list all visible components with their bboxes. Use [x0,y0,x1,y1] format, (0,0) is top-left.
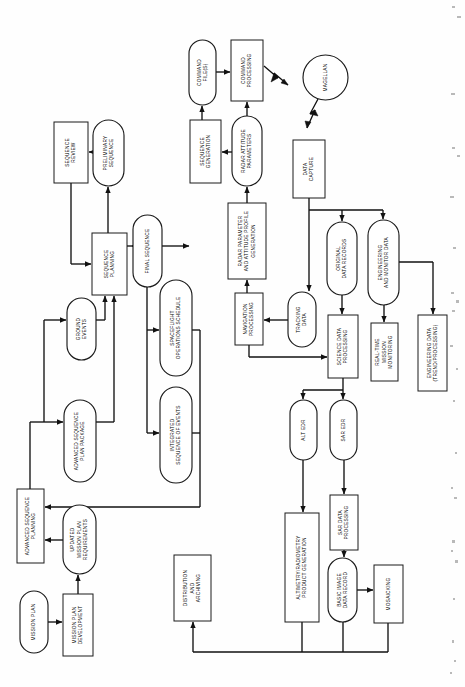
node-label-line: DATA [303,162,308,176]
node-label-line: COMMAND [241,57,246,84]
node-eng-monitor-data[interactable]: ENGINEERINGAND MONITOR DATA [368,220,399,305]
node-label-line: AND [190,582,195,593]
scan-artifact-speck [452,6,455,8]
node-label-line: CAPTURE [309,157,314,181]
node-radar-param-gen[interactable]: RADAR PARAMETERAND ATTITUDE PROFILEGENER… [228,203,266,279]
scan-artifact-speck [456,368,458,370]
node-command-files[interactable]: COMMANDFILE(S) [189,40,216,105]
node-label-line: OPERATIONS SCHEDULE [176,297,181,360]
node-alt-edr[interactable]: ALT EDR [290,400,317,460]
node-label-line: SPACEFLIGHT [170,310,175,345]
node-label-line: ALTIMETRY/RADIOMETRY [296,535,301,600]
diagram-canvas: SEQUENCEREVIEWPRELIMINARYSEQUENCESEQUENC… [0,0,465,687]
node-spaceflight-ops[interactable]: SPACEFLIGHTOPERATIONS SCHEDULE [160,280,192,376]
node-label-line: GENERATION [206,134,211,168]
node-label-line: PRODUCT GENERATION [302,537,307,598]
scan-artifact-speck [451,487,453,489]
node-updated-mission-req[interactable]: UPDATEDMISSION PLANREQUIREMENTS [63,505,96,574]
node-distribution-archiving[interactable]: DISTRIBUTIONANDARCHIVING [174,555,211,621]
node-label-line: REAL-TIME [375,338,380,366]
node-label-line: (TREND/PROCESSING) [433,324,438,381]
node-label-line: DISTRIBUTION [183,569,188,606]
scan-artifact-speck [457,16,461,18]
node-label-line: DATA RECORD [343,572,348,609]
scan-artifact-speck [452,540,455,543]
node-label-line: ENGINEERING [378,244,383,280]
node-adv-seq-planning[interactable]: ADVANCED SEQUENCEPLANNING [17,489,44,563]
node-label-line: MAGELLAN [323,63,328,91]
node-label-line: SAR EDR [341,418,346,441]
node-label-line: RADAR PARAMETER [238,215,243,266]
rf-bolt-downlink-arrowhead [305,121,311,128]
node-label-line: PROCESSING [343,329,348,363]
node-label-line: GENERATION [251,224,256,258]
node-label-line: ENGINEERING DATA [427,327,432,378]
node-mission-plan[interactable]: MISSION PLAN [20,591,48,653]
scan-artifact-speck [451,93,455,95]
node-sequence-planning[interactable]: SEQUENCEPLANNING [92,233,127,295]
node-integrated-seq-events[interactable]: INTEGRATEDSEQUENCE OF EVENTS [160,387,192,483]
node-sar-edr[interactable]: SAR EDR [330,400,357,460]
node-command-processing[interactable]: COMMANDPROCESSING [231,40,263,101]
node-label-line: PRELIMINARY [103,135,108,170]
node-label-line: PLAN PACKAGE [80,421,85,460]
node-label-line: COMMAND [197,59,202,86]
node-label-line: BASIC IMAGE [337,573,342,607]
node-label-line: PLANNING [31,513,36,539]
scan-artifact-speck [452,310,455,312]
node-layer: SEQUENCEREVIEWPRELIMINARYSEQUENCESEQUENC… [17,40,447,656]
node-mosaicking[interactable]: MOSAICKING [374,565,403,623]
node-sequence-review[interactable]: SEQUENCEREVIEW [54,122,88,183]
scan-artifact-speck [453,400,455,402]
scan-artifact-speck [457,155,460,157]
node-data-capture[interactable]: DATACAPTURE [293,140,325,198]
node-label-line: SEQUENCE [65,138,70,167]
node-label-line: PROCESSING [247,53,252,87]
scan-artifact-speck [454,497,457,499]
node-label-line: MISSION PLAN [72,606,77,643]
node-label-line: PLANNING [110,251,115,277]
rf-bolt-uplink-flag [271,73,278,82]
node-basic-image-record[interactable]: BASIC IMAGEDATA RECORD [328,558,357,622]
scan-artifact-speck [456,300,459,303]
node-label-line: SEQUENCE OF EVENTS [176,405,181,464]
scan-artifact-speck [450,345,453,347]
node-label-line: SCIENCE DATA [337,327,342,365]
node-label-line: MONITORING [388,335,393,368]
scan-artifact-speck [455,452,457,454]
node-label-line: UPDATED [70,527,75,551]
node-science-data-proc[interactable]: SCIENCE DATAPROCESSING [328,315,358,378]
node-label-line: AND MONITOR DATA [384,236,389,288]
node-adv-seq-plan-package[interactable]: ADVANCED SEQUENCEPLAN PACKAGE [64,400,96,482]
node-label-line: ADVANCED SEQUENCE [25,497,30,555]
rf-link-uplink-icon [264,66,288,85]
scan-artifact-speck [453,247,456,249]
node-preliminary-sequence[interactable]: PRELIMINARYSEQUENCE [93,120,124,186]
node-label-line: INTEGRATED [170,418,175,451]
node-label-line: ALT EDR [301,419,306,441]
node-label-line: DATA [302,312,307,326]
node-ground-events[interactable]: GROUNDEVENTS [67,298,96,360]
flowchart-svg: SEQUENCEREVIEWPRELIMINARYSEQUENCESEQUENC… [0,0,465,687]
node-tracking-data[interactable]: TRACKINGDATA [288,292,316,347]
scan-artifact-speck [452,640,454,643]
node-altimetry-product[interactable]: ALTIMETRY/RADIOMETRYPRODUCT GENERATION [285,513,319,622]
node-final-sequence[interactable]: FINAL SEQUENCE [133,215,162,287]
node-label-line: DATA RECORDS [342,239,347,279]
node-label-line: SAR DATA [338,509,343,535]
node-label-line: ADVANCED SEQUENCE [74,412,79,470]
node-label-line: MISSION PLAN [77,521,82,558]
node-radar-attitude-params[interactable]: RADAR ATTITUDEPARAMETERS [232,116,262,186]
node-engineering-data[interactable]: ENGINEERING DATA(TREND/PROCESSING) [418,315,447,391]
node-sequence-generation[interactable]: SEQUENCEGENERATION [190,120,221,183]
node-mission-plan-dev[interactable]: MISSION PLANDEVELOPMENT [63,594,93,656]
scan-artifact-speck [451,292,454,294]
node-original-data-records[interactable]: ORIGINALDATA RECORDS [327,222,357,295]
node-realtime-monitoring[interactable]: REAL-TIMEMISSIONMONITORING [371,323,398,381]
node-navigation-processing[interactable]: NAVIGATIONPROCESSING [235,293,263,345]
scan-artifact-speck [450,196,454,198]
node-label-line: PROCESSING [249,302,254,336]
node-label-line: TRACKING [296,306,301,333]
node-sar-data-processing[interactable]: SAR DATAPROCESSING [330,495,358,550]
node-magellan[interactable]: MAGELLAN [303,55,348,100]
